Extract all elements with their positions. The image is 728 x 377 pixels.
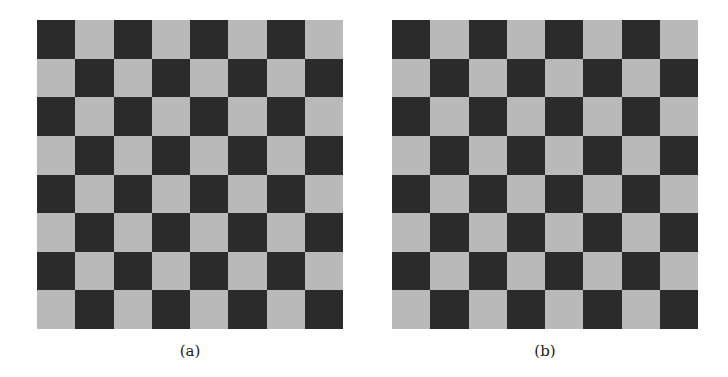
dark-square: [75, 136, 113, 175]
light-square: [660, 97, 698, 136]
light-square: [152, 20, 190, 59]
dark-square: [469, 20, 507, 59]
dark-square: [267, 20, 305, 59]
light-square: [392, 290, 430, 329]
dark-square: [75, 213, 113, 252]
light-square: [507, 20, 545, 59]
light-square: [305, 20, 343, 59]
light-square: [267, 290, 305, 329]
dark-square: [228, 213, 266, 252]
light-square: [545, 59, 583, 98]
dark-square: [152, 290, 190, 329]
dark-square: [392, 97, 430, 136]
light-square: [622, 59, 660, 98]
light-square: [305, 252, 343, 291]
light-square: [267, 213, 305, 252]
dark-square: [305, 290, 343, 329]
light-square: [228, 175, 266, 214]
dark-square: [430, 136, 468, 175]
dark-square: [392, 175, 430, 214]
dark-square: [37, 175, 75, 214]
dark-square: [545, 20, 583, 59]
light-square: [37, 136, 75, 175]
dark-square: [75, 290, 113, 329]
light-square: [152, 252, 190, 291]
light-square: [545, 136, 583, 175]
dark-square: [430, 290, 468, 329]
dark-square: [507, 213, 545, 252]
dark-square: [305, 213, 343, 252]
caption-a: (a): [160, 341, 220, 361]
light-square: [469, 290, 507, 329]
light-square: [152, 97, 190, 136]
light-square: [305, 175, 343, 214]
dark-square: [469, 252, 507, 291]
dark-square: [267, 175, 305, 214]
light-square: [507, 97, 545, 136]
light-square: [392, 136, 430, 175]
dark-square: [392, 20, 430, 59]
light-square: [507, 175, 545, 214]
caption-b: (b): [515, 341, 575, 361]
dark-square: [660, 59, 698, 98]
light-square: [37, 59, 75, 98]
light-square: [114, 59, 152, 98]
dark-square: [267, 97, 305, 136]
light-square: [545, 290, 583, 329]
dark-square: [545, 175, 583, 214]
dark-square: [305, 59, 343, 98]
light-square: [75, 97, 113, 136]
dark-square: [392, 252, 430, 291]
dark-square: [660, 136, 698, 175]
dark-square: [430, 59, 468, 98]
dark-square: [190, 20, 228, 59]
dark-square: [114, 20, 152, 59]
dark-square: [37, 97, 75, 136]
light-square: [583, 252, 621, 291]
dark-square: [152, 136, 190, 175]
light-square: [392, 59, 430, 98]
light-square: [114, 136, 152, 175]
dark-square: [267, 252, 305, 291]
dark-square: [469, 175, 507, 214]
light-square: [228, 20, 266, 59]
dark-square: [114, 97, 152, 136]
checkerboard-a: [37, 20, 343, 329]
dark-square: [583, 136, 621, 175]
dark-square: [190, 175, 228, 214]
light-square: [622, 290, 660, 329]
light-square: [469, 136, 507, 175]
light-square: [392, 213, 430, 252]
light-square: [622, 213, 660, 252]
light-square: [75, 252, 113, 291]
dark-square: [114, 175, 152, 214]
light-square: [190, 213, 228, 252]
light-square: [430, 97, 468, 136]
light-square: [267, 136, 305, 175]
light-square: [190, 59, 228, 98]
dark-square: [430, 213, 468, 252]
dark-square: [545, 97, 583, 136]
dark-square: [152, 59, 190, 98]
light-square: [37, 213, 75, 252]
light-square: [190, 290, 228, 329]
light-square: [37, 290, 75, 329]
dark-square: [114, 252, 152, 291]
light-square: [507, 252, 545, 291]
dark-square: [152, 213, 190, 252]
dark-square: [660, 290, 698, 329]
dark-square: [37, 252, 75, 291]
dark-square: [305, 136, 343, 175]
dark-square: [545, 252, 583, 291]
light-square: [75, 20, 113, 59]
light-square: [114, 213, 152, 252]
light-square: [305, 97, 343, 136]
light-square: [430, 175, 468, 214]
dark-square: [622, 175, 660, 214]
dark-square: [228, 290, 266, 329]
dark-square: [622, 252, 660, 291]
dark-square: [583, 213, 621, 252]
light-square: [228, 252, 266, 291]
dark-square: [660, 213, 698, 252]
light-square: [583, 175, 621, 214]
